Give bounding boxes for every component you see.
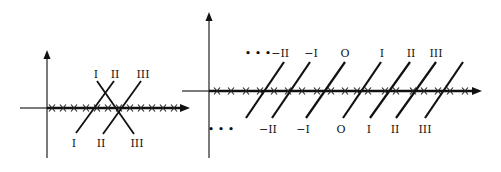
branch-label: I [72, 137, 76, 150]
branch-label: II [391, 123, 400, 136]
vertical-axis-arrow-icon [44, 50, 51, 59]
branch-label: II [111, 68, 120, 81]
branch-label: • • • [208, 123, 234, 136]
branch-label: I [380, 47, 384, 60]
diagram-canvas: IIIIIIIIIIII • • •−II−IOIIIIII• • •−II−I… [0, 0, 501, 172]
horizontal-axis-arrow-icon [180, 104, 190, 112]
branch-label: I [94, 68, 98, 81]
horizontal-axis-arrow-icon [472, 87, 482, 95]
branch-label: • • •−II [245, 47, 289, 60]
right-figure: • • •−II−IOIIIIII• • •−II−IOIIIIII [182, 12, 482, 158]
branch-label: O [340, 47, 349, 60]
branch-label: III [136, 68, 149, 81]
branch-label: II [407, 47, 416, 60]
branch-label: III [130, 137, 143, 150]
branch-label: −I [304, 47, 318, 60]
branch-label: I [367, 123, 371, 136]
branch-label: O [336, 123, 345, 136]
vertical-axis-arrow-icon [206, 12, 213, 21]
branch-label: −I [296, 123, 310, 136]
branch-label: III [418, 123, 431, 136]
left-figure: IIIIIIIIIIII [20, 50, 190, 158]
branch-label: II [97, 137, 106, 150]
branch-label: −II [259, 123, 277, 136]
branch-label: III [429, 47, 442, 60]
